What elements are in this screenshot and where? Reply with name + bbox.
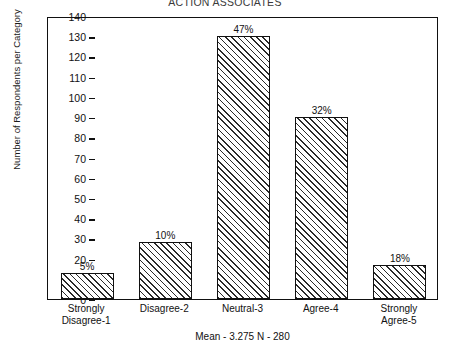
x-axis-label: Agree-4 (282, 303, 360, 315)
bar-value-label: 47% (233, 24, 253, 35)
y-tick-label: 100 (68, 92, 86, 105)
y-tick-mark (89, 118, 95, 119)
bar-value-label: 5% (80, 261, 94, 272)
bar: 5% (61, 273, 114, 299)
y-tick-mark (89, 17, 95, 18)
x-axis-label-line: Strongly (360, 303, 438, 315)
x-axis-label-line: Disagree-2 (125, 303, 203, 315)
x-axis-label-line: Agree-5 (360, 315, 438, 327)
y-tick-mark (89, 98, 95, 99)
y-tick-mark (89, 159, 95, 160)
bar-value-label: 32% (312, 105, 332, 116)
y-tick-label: 110 (69, 72, 86, 85)
bar-value-label: 18% (390, 253, 410, 264)
y-tick-mark (89, 57, 95, 58)
bar: 32% (295, 117, 348, 299)
y-tick-mark (89, 179, 95, 180)
y-tick-label: 130 (68, 31, 86, 44)
x-axis-label-line: Disagree-1 (47, 315, 125, 327)
x-axis-label: StronglyDisagree-1 (47, 303, 125, 326)
x-axis-label: StronglyAgree-5 (360, 303, 438, 326)
plot-area: 0102030405060708090100110120130140 5%10%… (47, 17, 438, 300)
y-tick-mark (89, 138, 95, 139)
y-tick-label: 140 (68, 11, 86, 24)
x-axis-label-line: Neutral-3 (203, 303, 281, 315)
y-tick-label: 30 (74, 233, 86, 246)
y-tick-mark (89, 78, 95, 79)
bar: 10% (139, 242, 192, 299)
bar-value-label: 10% (155, 230, 175, 241)
chart-footnote: Mean - 3.275 N - 280 (47, 331, 438, 342)
y-tick-mark (89, 199, 95, 200)
y-tick-mark (89, 219, 95, 220)
x-axis-label-line: Agree-4 (282, 303, 360, 315)
y-tick-label: 60 (74, 173, 86, 186)
y-tick-label: 40 (74, 213, 86, 226)
chart-title: ACTION ASSOCIATES (0, 0, 450, 8)
bar: 18% (373, 265, 426, 299)
bar: 47% (217, 36, 270, 299)
y-axis-title: Number of Respondents per Category (11, 0, 22, 200)
y-tick-label: 80 (74, 132, 86, 145)
y-tick-label: 50 (74, 193, 86, 206)
x-axis-label: Disagree-2 (125, 303, 203, 315)
x-axis-label-line: Strongly (47, 303, 125, 315)
y-tick-label: 120 (68, 51, 86, 64)
x-axis-label: Neutral-3 (203, 303, 281, 315)
y-tick-mark (89, 300, 95, 301)
y-tick-mark (89, 239, 95, 240)
y-tick-mark (89, 37, 95, 38)
y-tick-label: 90 (74, 112, 86, 125)
y-tick-label: 70 (74, 153, 86, 166)
